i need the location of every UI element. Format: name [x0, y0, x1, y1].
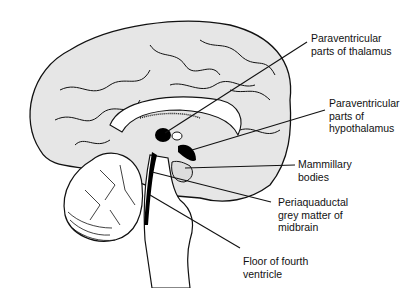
label-periaqueductal-grey: Periaquaductal grey matter of midbrain: [278, 196, 348, 234]
label-line: hypothalamus: [329, 122, 400, 135]
label-line: Periaquaductal: [278, 196, 348, 209]
label-line: Paraventricular: [329, 97, 400, 110]
label-line: ventricle: [243, 268, 308, 281]
label-line: Floor of fourth: [243, 255, 308, 268]
label-mammillary-bodies: Mammillary bodies: [298, 158, 352, 183]
label-line: parts of: [329, 110, 400, 123]
label-line: Mammillary: [298, 158, 352, 171]
label-line: bodies: [298, 171, 352, 184]
label-line: parts of thalamus: [311, 45, 392, 58]
label-line: grey matter of: [278, 209, 348, 222]
label-paraventricular-hypothalamus: Paraventricular parts of hypothalamus: [329, 97, 400, 135]
label-floor-fourth-ventricle: Floor of fourth ventricle: [243, 255, 308, 280]
label-paraventricular-thalamus: Paraventricular parts of thalamus: [311, 32, 392, 57]
label-line: midbrain: [278, 221, 348, 234]
label-line: Paraventricular: [311, 32, 392, 45]
